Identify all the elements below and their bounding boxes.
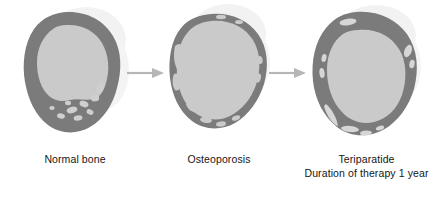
- panel-label-osteoporosis-line1: Osteoporosis: [187, 153, 250, 165]
- panel-teriparatide: Teriparatide Duration of therapy 1 year: [288, 0, 445, 199]
- bone-cross-section-teriparatide: [288, 0, 445, 150]
- bone-comparison-figure: Normal bone: [0, 0, 445, 199]
- caption-normal-bone: Normal bone: [0, 153, 150, 167]
- caption-osteoporosis: Osteoporosis: [148, 153, 290, 167]
- panel-label-teriparatide-line2: Duration of therapy 1 year: [288, 167, 445, 181]
- panel-label-normal-line1: Normal bone: [44, 153, 105, 165]
- panel-label-teriparatide-line1: Teriparatide: [338, 153, 394, 165]
- panel-normal-bone: Normal bone: [0, 0, 150, 199]
- panel-osteoporosis: Osteoporosis: [148, 0, 290, 199]
- caption-teriparatide: Teriparatide Duration of therapy 1 year: [288, 153, 445, 180]
